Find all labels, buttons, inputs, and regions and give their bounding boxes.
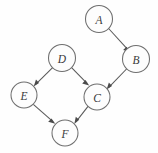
graph-canvas: A B C D E F bbox=[0, 0, 158, 153]
node-e-label: E bbox=[19, 90, 27, 102]
node-b[interactable]: B bbox=[123, 46, 150, 73]
edge-b-to-c bbox=[107, 69, 127, 90]
node-c-label: C bbox=[93, 92, 101, 104]
node-f-label: F bbox=[60, 128, 69, 140]
edge-e-to-f-line bbox=[33, 104, 53, 121]
node-d-label: D bbox=[57, 53, 67, 65]
node-e[interactable]: E bbox=[11, 82, 37, 108]
edge-d-to-e-line bbox=[36, 68, 53, 85]
edge-c-to-f bbox=[74, 106, 88, 124]
edge-layer bbox=[33, 29, 130, 124]
node-d[interactable]: D bbox=[49, 45, 76, 72]
edge-a-to-b-line bbox=[109, 29, 129, 50]
graph-figure: A B C D E F bbox=[0, 0, 158, 153]
edge-d-to-e bbox=[34, 68, 53, 87]
node-b-label: B bbox=[132, 54, 139, 66]
node-f[interactable]: F bbox=[52, 120, 78, 146]
edge-e-to-f-arrowhead bbox=[48, 118, 55, 123]
node-a[interactable]: A bbox=[86, 6, 113, 33]
edge-d-to-e-arrowhead bbox=[34, 80, 39, 87]
edge-e-to-f bbox=[33, 104, 55, 124]
node-a-label: A bbox=[94, 14, 103, 26]
edge-b-to-c-line bbox=[109, 69, 127, 88]
edge-d-to-c bbox=[72, 68, 90, 86]
node-c[interactable]: C bbox=[84, 84, 110, 110]
edge-d-to-c-arrowhead bbox=[82, 80, 89, 86]
